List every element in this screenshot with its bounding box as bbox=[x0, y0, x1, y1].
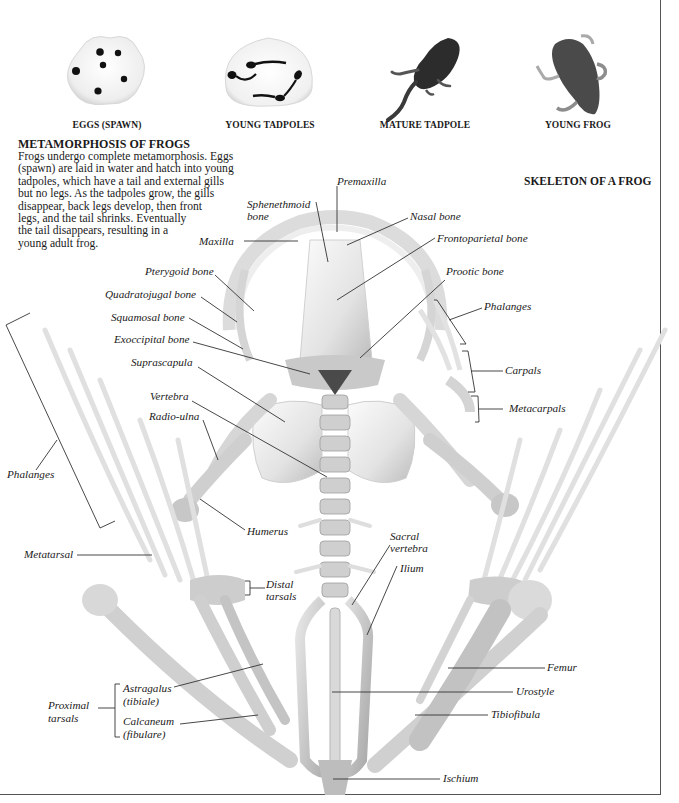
label-metacarpals: Metacarpals bbox=[509, 402, 566, 414]
label-phalanges-foot: Phalanges bbox=[7, 468, 54, 480]
label-ilium: Ilium bbox=[400, 562, 424, 574]
label-radio-ulna: Radio-ulna bbox=[149, 410, 199, 422]
label-metatarsal: Metatarsal bbox=[24, 548, 73, 560]
label-proximal-tarsals-line2: tarsals bbox=[48, 712, 78, 724]
label-maxilla: Maxilla bbox=[199, 235, 234, 247]
label-calcaneum-line1: Calcaneum bbox=[123, 715, 174, 727]
label-phalanges-hand: Phalanges bbox=[484, 300, 531, 312]
label-astragalus-line1: Astragalus bbox=[123, 682, 172, 694]
label-leader-lines bbox=[0, 0, 679, 803]
label-distal-tarsals-line2: tarsals bbox=[266, 590, 296, 602]
label-urostyle: Urostyle bbox=[516, 685, 554, 697]
label-prootic-bone: Prootic bone bbox=[446, 265, 504, 277]
label-proximal-tarsals-line1: Proximal bbox=[48, 699, 89, 711]
label-nasal-bone: Nasal bone bbox=[410, 210, 461, 222]
label-astragalus-line2: (tibiale) bbox=[123, 695, 159, 707]
label-squamosal-bone: Squamosal bone bbox=[111, 311, 185, 323]
label-pterygoid-bone: Pterygoid bone bbox=[145, 265, 214, 277]
label-ischium: Ischium bbox=[443, 772, 478, 784]
label-quadratojugal-bone: Quadratojugal bone bbox=[105, 288, 196, 300]
label-sphenethmoid-bone-line1: Sphenethmoid bbox=[247, 198, 310, 210]
label-exoccipital-bone: Exoccipital bone bbox=[114, 333, 190, 345]
label-sacral-vertebra-line2: vertebra bbox=[390, 542, 428, 554]
label-humerus: Humerus bbox=[247, 525, 288, 537]
label-vertebra: Vertebra bbox=[150, 390, 189, 402]
label-premaxilla: Premaxilla bbox=[337, 175, 386, 187]
label-sphenethmoid-bone-line2: bone bbox=[247, 210, 269, 222]
label-distal-tarsals-line1: Distal bbox=[266, 578, 293, 590]
label-carpals: Carpals bbox=[505, 364, 541, 376]
label-suprascapula: Suprascapula bbox=[131, 356, 193, 368]
label-tibiofibula: Tibiofibula bbox=[491, 708, 540, 720]
label-sacral-vertebra-line1: Sacral bbox=[390, 530, 419, 542]
label-femur: Femur bbox=[547, 661, 577, 673]
label-calcaneum-line2: (fibulare) bbox=[123, 728, 165, 740]
label-frontoparietal-bone: Frontoparietal bone bbox=[437, 232, 528, 244]
